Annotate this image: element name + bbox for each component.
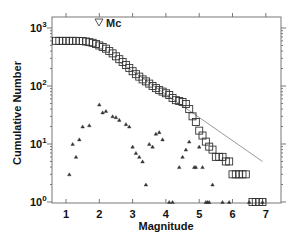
triangle-marker [211,183,215,186]
triangle-marker [171,200,175,203]
magnitude-frequency-chart: 1234567 100101102103 Magnitude Cumulativ… [0,0,298,244]
triangle-marker [104,109,108,112]
x-tick-label: 1 [63,208,69,220]
triangle-marker [71,142,75,145]
noncumulative-series [68,103,265,204]
triangle-marker [98,103,102,106]
triangle-marker [184,148,188,151]
triangle-marker [201,165,205,168]
y-tick-label: 100 [30,194,47,208]
triangle-marker [114,116,118,119]
triangle-marker [221,200,225,203]
x-tick-label: 6 [229,208,235,220]
x-tick-label: 3 [130,208,136,220]
gr-fit-line [119,62,262,162]
y-tick-label: 103 [30,20,47,34]
triangle-marker [78,138,82,141]
triangle-marker [134,151,138,154]
triangle-marker [147,142,151,145]
triangle-marker [88,124,92,127]
triangle-marker [81,125,85,128]
triangle-marker [247,200,251,203]
legend-mc: Mc [95,17,121,29]
triangle-marker [227,200,231,203]
legend-mc-label: Mc [106,17,121,29]
triangle-marker [181,155,185,158]
triangle-marker [197,145,201,148]
x-tick-label: 4 [163,208,170,220]
triangle-marker [144,183,148,186]
triangle-marker [141,160,145,163]
y-axis-title: Cumulative Number [11,60,23,165]
triangle-marker [167,200,171,203]
x-tick-labels: 1234567 [63,208,269,220]
triangle-marker [111,115,115,118]
x-axis-title: Magnitude [139,220,194,232]
fit-line-segment [119,62,262,162]
triangle-marker [177,165,181,168]
triangle-marker [74,155,78,158]
triangle-marker [157,131,161,134]
y-tick-label: 101 [30,136,47,150]
triangle-marker [124,123,128,126]
x-tick-label: 7 [263,208,269,220]
triangle-marker [137,155,141,158]
triangle-marker [131,145,135,148]
triangle-marker [68,173,72,176]
triangle-marker [161,138,165,141]
triangle-marker [187,140,191,143]
triangle-marker [151,145,155,148]
y-tick-label: 102 [30,78,47,92]
triangle-marker [261,200,265,203]
triangle-marker [127,125,131,128]
x-tick-label: 2 [96,208,102,220]
triangle-marker [101,111,105,114]
inverted-triangle-icon [95,19,103,26]
x-tick-label: 5 [196,208,202,220]
cumulative-series [53,37,266,205]
y-tick-labels: 100101102103 [30,20,47,208]
